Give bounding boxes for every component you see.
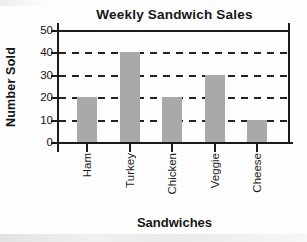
category-label-ham: Ham [79,153,95,177]
y-axis-line [57,23,59,152]
x-tick-turkey [129,142,131,152]
scan-artifact-smudge [0,0,46,6]
y-tick-label-50: 50 [20,23,53,38]
gridline-40 [59,52,288,54]
bar-veggie [205,75,225,142]
plot-right-border [288,23,290,144]
x-tick-cheese [256,142,258,152]
y-tick-label-40: 40 [20,45,53,60]
bar-turkey [120,52,140,142]
scan-artifact-band [0,234,307,242]
y-tick-label-20: 20 [20,90,53,105]
x-tick-ham [86,142,88,152]
bar-chart-figure: Weekly Sandwich Sales Number Sold 010203… [0,0,307,242]
category-label-turkey: Turkey [122,153,138,188]
y-axis-title: Number Sold [4,47,18,127]
category-label-cheese: Cheese [249,153,265,193]
plot-top-border [57,30,290,32]
gridline-30 [59,75,288,77]
bar-chicken [162,97,182,142]
y-tick-label-10: 10 [20,113,53,128]
y-tick-label-0: 0 [20,135,53,150]
y-tick-label-30: 30 [20,68,53,83]
category-label-chicken: Chicken [164,153,180,195]
category-label-veggie: Veggie [207,153,223,188]
x-tick-chicken [171,142,173,152]
chart-title: Weekly Sandwich Sales [59,6,290,23]
y-axis-title-wrap: Number Sold [2,31,19,143]
bar-ham [77,97,97,142]
bar-cheese [247,120,267,142]
x-axis-title: Sandwiches [59,215,290,231]
x-tick-veggie [214,142,216,152]
